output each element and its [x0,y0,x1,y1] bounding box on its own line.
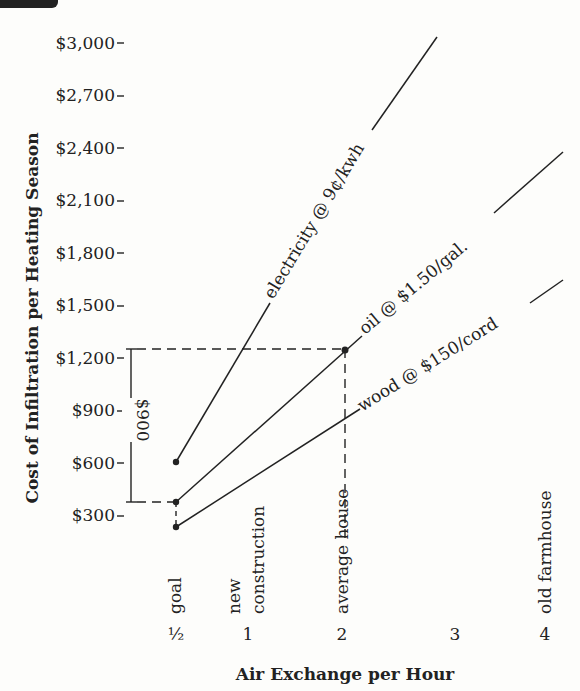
y-tick: $2,700 [56,85,115,105]
y-tick: $1,200 [56,348,115,368]
category-average-house: average house [332,489,352,614]
x-tick: 1 [243,624,254,644]
y-tick: $2,400 [56,138,115,158]
x-tick: ½ [168,624,184,644]
x-axis: ½ 1 2 3 4 [168,624,551,644]
x-category-labels: goal new construction average house old … [165,489,555,614]
series-electricity: electricity @ 9¢/kwh [173,37,437,465]
x-tick: 3 [450,624,461,644]
savings-label: $900 [133,398,153,441]
category-old-farmhouse: old farmhouse [535,490,555,614]
y-tick: $1,500 [56,295,115,315]
y-tick: $300 [72,505,115,525]
category-new: new [224,578,244,614]
y-tick: $600 [72,453,115,473]
category-construction: construction [248,506,268,614]
y-tick: $2,100 [56,190,115,210]
y-tick: $900 [72,400,115,420]
category-goal: goal [165,577,185,614]
x-tick: 4 [540,624,551,644]
y-tick: $1,800 [56,243,115,263]
x-tick: 2 [337,624,348,644]
y-axis-title: Cost of Infiltration per Heating Season [22,133,42,504]
y-tick: $3,000 [56,33,115,53]
y-axis: $3,000 $2,700 $2,400 $2,100 $1,800 $1,50… [56,33,124,525]
series-label-oil: oil @ $1.50/gal. [355,236,471,338]
series-label-electricity: electricity @ 9¢/kwh [259,139,368,302]
savings-bracket [126,349,345,540]
infiltration-cost-chart: Cost of Infiltration per Heating Season … [0,0,580,691]
series-oil: oil @ $1.50/gal. [173,152,563,505]
x-axis-title: Air Exchange per Hour [235,664,456,684]
